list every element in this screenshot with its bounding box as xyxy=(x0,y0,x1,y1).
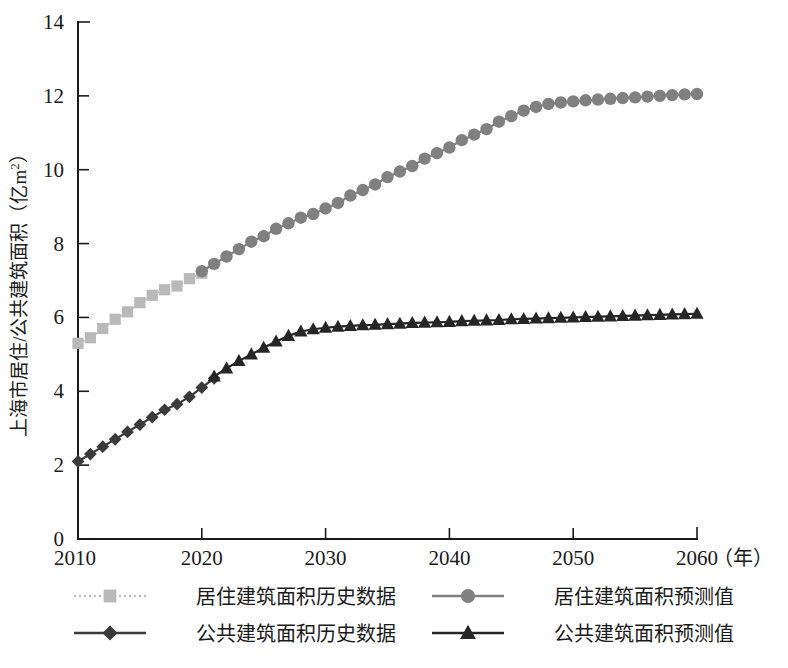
data-point xyxy=(456,134,468,146)
data-point xyxy=(121,426,134,439)
data-point xyxy=(245,236,257,248)
data-point xyxy=(110,314,121,325)
data-point xyxy=(468,128,480,140)
data-point xyxy=(617,92,629,104)
y-axis-title: 上海市居住/公共建筑面积（亿m2） xyxy=(7,144,31,437)
y-axis-ticks: 02468101214 xyxy=(43,10,89,551)
data-point xyxy=(84,448,97,461)
data-point xyxy=(158,403,171,416)
data-point xyxy=(96,440,109,453)
data-point xyxy=(122,306,133,317)
data-point xyxy=(85,332,96,343)
data-point xyxy=(654,90,666,102)
y-axis-title-tail: ） xyxy=(9,144,30,163)
data-point xyxy=(418,152,430,164)
data-point xyxy=(678,88,690,100)
data-point xyxy=(282,217,294,229)
data-point xyxy=(295,212,307,224)
data-point xyxy=(480,123,492,135)
data-point xyxy=(245,347,258,359)
data-point xyxy=(147,290,158,301)
series-line-public_history xyxy=(78,378,214,461)
y-tick-label: 6 xyxy=(54,305,65,329)
data-point xyxy=(406,160,418,172)
y-tick-label: 10 xyxy=(43,158,64,182)
x-tick-label: 2050 xyxy=(552,546,594,570)
data-point xyxy=(592,93,604,105)
data-point xyxy=(344,189,356,201)
data-point xyxy=(604,93,616,105)
data-point xyxy=(257,341,270,353)
data-point xyxy=(146,411,159,424)
data-point xyxy=(232,354,245,366)
legend-marker-square-icon xyxy=(104,590,117,603)
data-point xyxy=(220,250,232,262)
data-point xyxy=(381,171,393,183)
data-point xyxy=(159,284,170,295)
y-tick-label: 2 xyxy=(54,453,65,477)
data-point xyxy=(641,90,653,102)
series-residential_forecast xyxy=(196,88,704,278)
data-point xyxy=(184,273,195,284)
data-point xyxy=(394,165,406,177)
x-tick-label: 2040 xyxy=(428,546,470,570)
data-point xyxy=(171,398,184,411)
data-point xyxy=(443,141,455,153)
data-point xyxy=(196,265,208,277)
legend-item[interactable]: 居住建筑面积历史数据 xyxy=(74,586,396,608)
legend-label: 居住建筑面积预测值 xyxy=(554,586,734,608)
legend-item[interactable]: 公共建筑面积预测值 xyxy=(432,623,734,645)
data-point xyxy=(258,230,270,242)
legend-label: 居住建筑面积历史数据 xyxy=(196,586,396,608)
data-point xyxy=(220,361,233,373)
x-axis-ticks: 201020202030204020502060（年） xyxy=(54,528,773,570)
data-point xyxy=(505,110,517,122)
data-point xyxy=(579,94,591,106)
legend-marker-diamond-icon xyxy=(102,625,117,640)
y-tick-label: 4 xyxy=(54,379,65,403)
data-point xyxy=(629,91,641,103)
series-public_history xyxy=(72,372,221,468)
chart-series xyxy=(72,88,704,468)
data-point xyxy=(357,184,369,196)
data-point xyxy=(555,96,567,108)
data-point xyxy=(542,98,554,110)
x-tick-label: 2030 xyxy=(305,546,347,570)
y-tick-label: 8 xyxy=(54,232,65,256)
y-tick-label: 14 xyxy=(43,10,65,34)
series-line-public_forecast xyxy=(214,314,697,377)
y-axis-label: 上海市居住/公共建筑面积（亿m2） xyxy=(7,144,31,437)
data-point xyxy=(307,208,319,220)
chart-legend: 居住建筑面积历史数据居住建筑面积预测值公共建筑面积历史数据公共建筑面积预测值 xyxy=(74,586,734,645)
y-tick-label: 12 xyxy=(43,84,64,108)
x-tick-label: 2060 xyxy=(676,546,718,570)
x-axis-unit-label: （年） xyxy=(713,547,773,569)
legend-item[interactable]: 居住建筑面积预测值 xyxy=(432,586,734,608)
data-point xyxy=(109,433,122,446)
legend-item[interactable]: 公共建筑面积历史数据 xyxy=(74,623,396,645)
data-point xyxy=(208,258,220,270)
x-tick-label: 2020 xyxy=(181,546,223,570)
data-point xyxy=(691,88,703,100)
data-point xyxy=(171,280,182,291)
data-point xyxy=(72,338,83,349)
chart-figure: 上海市居住/公共建筑面积（亿m2） 02468101214 2010202020… xyxy=(0,0,788,668)
data-point xyxy=(517,104,529,116)
data-point xyxy=(431,147,443,159)
legend-label: 公共建筑面积预测值 xyxy=(554,623,734,645)
data-point xyxy=(530,101,542,113)
data-point xyxy=(233,243,245,255)
series-line-residential_forecast xyxy=(202,94,697,271)
x-tick-label: 2010 xyxy=(54,546,96,570)
data-point xyxy=(319,202,331,214)
series-residential_history xyxy=(72,268,207,349)
data-point xyxy=(270,223,282,235)
legend-label: 公共建筑面积历史数据 xyxy=(196,623,396,645)
data-point xyxy=(208,369,221,381)
data-point xyxy=(134,297,145,308)
data-point xyxy=(369,178,381,190)
legend-marker-circle-icon xyxy=(461,589,475,603)
y-axis-title-main: 上海市居住/公共建筑面积（亿m xyxy=(9,170,30,437)
chart-canvas: 上海市居住/公共建筑面积（亿m2） 02468101214 2010202020… xyxy=(0,0,788,668)
data-point xyxy=(690,307,703,319)
